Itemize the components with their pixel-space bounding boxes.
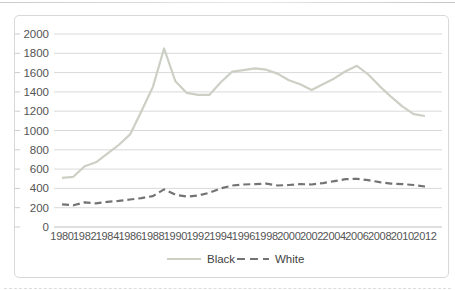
- y-axis-tick-label: 1600: [23, 67, 49, 79]
- x-axis-tick-label: 1996: [232, 230, 255, 242]
- series-line-white: [62, 179, 425, 206]
- chart-frame: 0200400600800100012001400160018002000198…: [14, 15, 449, 278]
- legend-label-black: Black: [207, 253, 235, 265]
- y-axis-tick-label: 600: [30, 163, 49, 175]
- y-axis-tick-label: 1200: [23, 105, 49, 117]
- x-axis-tick-label: 1988: [141, 230, 164, 242]
- y-axis-tick-label: 0: [43, 221, 49, 233]
- y-axis-tick-label: 1800: [23, 47, 49, 59]
- x-axis-tick-label: 2012: [413, 230, 436, 242]
- x-axis-tick-label: 1982: [73, 230, 96, 242]
- x-axis-tick-label: 1994: [209, 230, 232, 242]
- x-axis-tick-label: 1992: [186, 230, 209, 242]
- x-axis-tick-label: 1984: [96, 230, 119, 242]
- x-axis-tick-label: 1998: [255, 230, 278, 242]
- x-axis-tick-label: 1990: [164, 230, 187, 242]
- x-axis-tick-label: 2006: [345, 230, 368, 242]
- x-axis-tick-label: 2010: [391, 230, 414, 242]
- x-axis-tick-label: 1980: [50, 230, 73, 242]
- x-axis-tick-label: 2000: [277, 230, 300, 242]
- y-axis-tick-label: 1400: [23, 86, 49, 98]
- x-axis-tick-label: 2008: [368, 230, 391, 242]
- x-axis-tick-label: 1986: [118, 230, 141, 242]
- bottom-divider-line: [4, 288, 451, 289]
- y-axis-tick-label: 200: [30, 202, 49, 214]
- top-divider-line: [0, 2, 455, 3]
- y-axis-tick-label: 2000: [23, 28, 49, 40]
- chart-canvas: 0200400600800100012001400160018002000198…: [15, 16, 448, 277]
- page: 0200400600800100012001400160018002000198…: [0, 0, 455, 290]
- y-axis-tick-label: 800: [30, 144, 49, 156]
- y-axis-tick-label: 400: [30, 182, 49, 194]
- series-line-black: [62, 49, 425, 178]
- y-axis-tick-label: 1000: [23, 125, 49, 137]
- x-axis-tick-label: 2002: [300, 230, 323, 242]
- legend-label-white: White: [275, 253, 304, 265]
- x-axis-tick-label: 2004: [323, 230, 346, 242]
